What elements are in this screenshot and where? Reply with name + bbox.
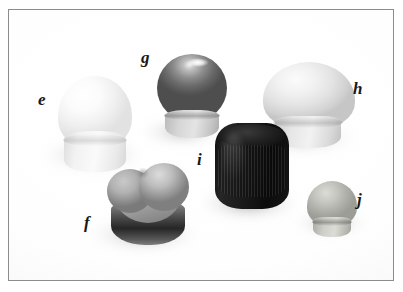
white-dome-cap-body xyxy=(56,76,134,172)
small-grey-cap-body xyxy=(307,181,357,239)
panel-label-h: h xyxy=(353,80,362,97)
panel-label-e: e xyxy=(38,91,46,108)
heart-shaped-cap-body xyxy=(105,161,191,245)
panel-label-f: f xyxy=(84,214,90,231)
panel-label-j: j xyxy=(357,191,362,208)
figure-frame: e f g h i j xyxy=(8,9,394,281)
object-f xyxy=(105,161,191,245)
cap-seam xyxy=(63,134,127,146)
object-e xyxy=(56,76,134,172)
specular-highlight xyxy=(187,58,209,67)
cap-sheen xyxy=(223,133,243,181)
cap-seam xyxy=(164,111,220,120)
heart-cleft xyxy=(135,165,151,181)
figure-plate: e f g h i j xyxy=(0,0,403,292)
panel-label-g: g xyxy=(141,49,150,66)
panel-label-i: i xyxy=(197,151,202,168)
black-ribbed-cap-body xyxy=(215,123,289,209)
object-i xyxy=(215,123,289,209)
object-j xyxy=(307,181,357,239)
cap-seam xyxy=(312,218,352,226)
